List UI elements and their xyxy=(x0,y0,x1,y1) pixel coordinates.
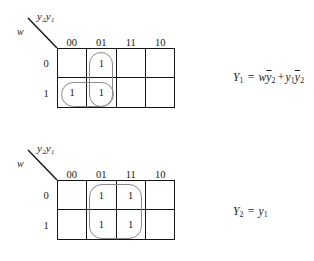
kmap-y2-cell-r1c2: 1 xyxy=(117,210,146,239)
equation-y2-lhs-symbol: Y xyxy=(233,205,240,217)
kmap-y1-cell-r1c2 xyxy=(117,78,146,107)
kmap-y1: y₂y₁ w 00 01 11 10 0 1 1 1 1 xyxy=(0,8,190,113)
kmap-y2-top-variable-label: y₂y₁ xyxy=(37,142,54,154)
kmap-y2-cell-r1c0 xyxy=(58,210,87,239)
equation-y1-term-0-var-1-subscript: 2 xyxy=(272,76,276,85)
equation-y1-lhs: Y1 xyxy=(233,71,244,83)
kmap-y2-row-label-0: 0 xyxy=(38,180,54,210)
equation-y2-term-0: y1 xyxy=(258,205,268,217)
kmap-y1-cell-r0c3 xyxy=(146,49,174,77)
kmap-y2: y₂y₁ w 00 01 11 10 0 1 1 1 1 1 xyxy=(0,140,190,245)
kmap-y1-row-labels: 0 1 xyxy=(38,48,54,108)
equation-y1-lhs-symbol: Y xyxy=(233,71,240,83)
kmap-y1-cell-r1c0: 1 xyxy=(58,78,87,107)
kmap-y1-top-variable-label: y₂y₁ xyxy=(37,10,54,22)
kmap-y2-row-1: 1 1 xyxy=(58,210,174,239)
kmap-y1-cell-r1c1: 1 xyxy=(87,78,116,107)
equation-y1-equals: = xyxy=(244,71,259,83)
kmap-y2-cell-r0c2: 1 xyxy=(117,181,146,209)
kmap-y2-row-label-1: 1 xyxy=(38,210,54,240)
kmap-y2-cell-r1c3 xyxy=(146,210,174,239)
kmap-y1-row-0: 1 xyxy=(58,49,174,78)
equation-y2-lhs: Y2 xyxy=(233,205,244,217)
equation-y2: Y2=y1 xyxy=(233,205,269,219)
kmap-y2-row-0: 1 1 xyxy=(58,181,174,210)
kmap-y2-cell-r1c1: 1 xyxy=(87,210,116,239)
equation-y1: Y1=wy2+y1y2 xyxy=(233,71,305,85)
kmap-y1-cell-r0c2 xyxy=(117,49,146,77)
kmap-y2-cell-r0c1: 1 xyxy=(87,181,116,209)
kmap-y2-cell-r0c0 xyxy=(58,181,87,209)
kmap-y1-side-variable-label: w xyxy=(17,26,24,37)
kmap-y2-row-labels: 0 1 xyxy=(38,180,54,240)
kmap-y2-grid: 1 1 1 1 xyxy=(57,180,175,240)
equation-y2-term-0-var-0-subscript: 1 xyxy=(264,210,268,219)
kmap-y1-cell-r0c1: 1 xyxy=(87,49,116,77)
kmap-y1-row-label-0: 0 xyxy=(38,48,54,78)
kmap-y1-cell-r1c3 xyxy=(146,78,174,107)
kmap-y2-side-variable-label: w xyxy=(17,158,24,169)
kmap-y1-row-label-1: 1 xyxy=(38,78,54,108)
equation-y2-equals: = xyxy=(244,205,259,217)
kmap-y1-grid: 1 1 1 xyxy=(57,48,175,108)
kmap-y1-cell-r0c0 xyxy=(58,49,87,77)
equation-y1-term-1: y1y2 xyxy=(285,71,305,83)
kmap-y1-row-1: 1 1 xyxy=(58,78,174,107)
equation-y1-term-1-var-1-subscript: 2 xyxy=(300,76,304,85)
equation-y1-term-0: wy2 xyxy=(258,71,276,83)
kmap-y2-cell-r0c3 xyxy=(146,181,174,209)
karnaugh-map-figure: y₂y₁ w 00 01 11 10 0 1 1 1 1 xyxy=(0,0,314,261)
